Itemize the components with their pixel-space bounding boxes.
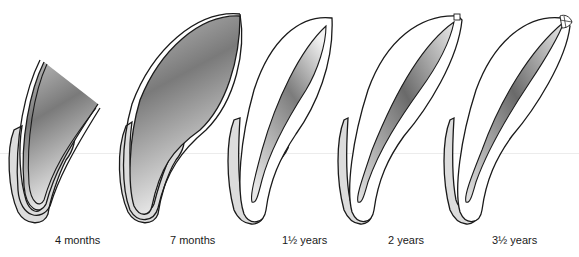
- stage-label-7-months: 7 months: [170, 234, 215, 246]
- stage-label-1-5-years: 1½ years: [282, 234, 327, 246]
- tooth-stage-3-5-years: [444, 15, 572, 224]
- stage-label-3-5-years: 3½ years: [492, 234, 537, 246]
- stage-label-4-months: 4 months: [55, 234, 100, 246]
- tooth-stage-7-months: [119, 14, 241, 223]
- tooth-development-diagram: [0, 0, 579, 257]
- tooth-stage-1-5-years: [228, 18, 332, 224]
- tooth-stage-2-years: [338, 14, 462, 224]
- stage-label-2-years: 2 years: [388, 234, 424, 246]
- tooth-stage-4-months: [9, 60, 100, 223]
